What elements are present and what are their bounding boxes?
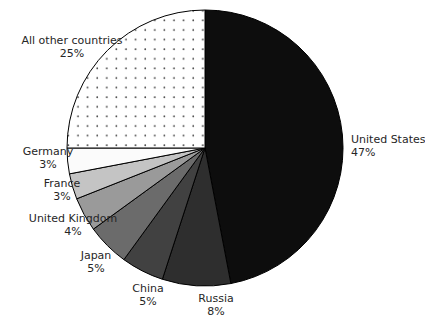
slice-label-value: 25% [60,47,84,60]
slice-label-value: 47% [351,146,375,159]
pie-slice[interactable] [205,10,343,284]
slice-label-name: China [132,282,163,295]
slice-label: Germany3% [23,145,74,171]
pie-chart-canvas: United States47%Russia8%China5%Japan5%Un… [0,0,425,327]
pie-chart: United States47%Russia8%China5%Japan5%Un… [0,0,425,327]
slice-label: China5% [132,282,163,308]
pie-slice[interactable] [67,10,205,148]
slice-label-value: 3% [53,190,70,203]
slice-label-name: Japan [80,249,112,262]
pie-slices [67,10,343,286]
slice-label-value: 3% [39,158,56,171]
slice-label-name: United Kingdom [29,212,117,225]
slice-label-name: Russia [198,292,233,305]
slice-label-value: 8% [207,305,224,318]
slice-label-value: 5% [139,295,156,308]
slice-label-name: United States [351,133,425,146]
slice-label-name: All other countries [21,34,122,47]
slice-label-value: 5% [87,262,104,275]
slice-label-name: France [44,177,81,190]
slice-label: Japan5% [80,249,112,275]
slice-label: Russia8% [198,292,233,318]
slice-label-value: 4% [64,225,81,238]
slice-label-name: Germany [23,145,74,158]
slice-label: United States47% [351,133,425,159]
